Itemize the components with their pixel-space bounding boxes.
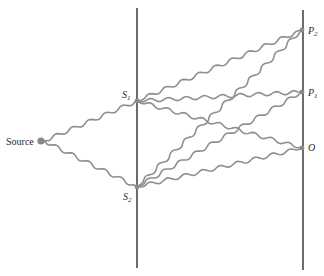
double-slit-diagram: Source S1 S2 P2 P1 O bbox=[0, 0, 324, 276]
point-p2-label: P2 bbox=[307, 25, 318, 38]
point-p2-dot bbox=[300, 28, 305, 33]
wave-path-source-to-s2 bbox=[44, 141, 137, 187]
source-dot bbox=[37, 137, 44, 144]
slit-s1-label: S1 bbox=[122, 89, 131, 102]
point-p1-label: P1 bbox=[307, 87, 318, 100]
point-o-dot bbox=[300, 146, 305, 151]
slit-s2-dot bbox=[135, 185, 140, 190]
slit-s2-label: S2 bbox=[123, 191, 132, 204]
point-o-label: O bbox=[308, 142, 315, 153]
wave-path-s1-to-p2 bbox=[137, 30, 302, 101]
wave-paths bbox=[44, 30, 302, 187]
slit-s1-dot bbox=[135, 99, 140, 104]
wave-path-s2-to-p1 bbox=[137, 92, 302, 187]
point-p1-dot bbox=[300, 90, 305, 95]
wave-path-source-to-s1 bbox=[44, 101, 137, 141]
source-label: Source bbox=[6, 136, 34, 147]
wave-path-s1-to-p1 bbox=[137, 91, 302, 102]
wave-path-s2-to-o bbox=[137, 148, 302, 187]
